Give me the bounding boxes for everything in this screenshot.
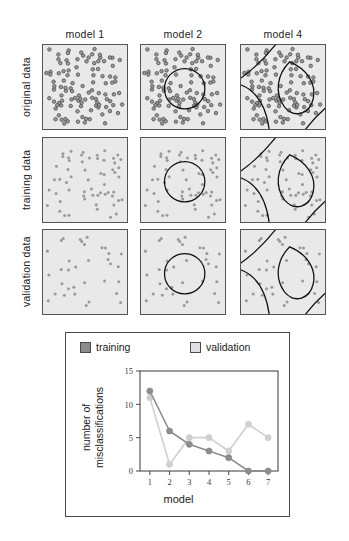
scatter-panel-validation-model-1 (42, 229, 128, 315)
svg-text:5: 5 (129, 433, 133, 443)
chart-x-axis-title: model (66, 493, 291, 505)
column-header-model-4: model 4 (238, 28, 328, 40)
column-header-model-2: model 2 (138, 28, 228, 40)
svg-text:10: 10 (125, 400, 134, 410)
scatter-panel-original-model-1 (42, 44, 128, 130)
svg-text:6: 6 (246, 477, 250, 487)
scatter-panel-training-model-2 (140, 137, 226, 223)
svg-text:5: 5 (227, 477, 231, 487)
svg-text:15: 15 (125, 366, 134, 376)
legend-swatch-training-icon (80, 342, 91, 353)
svg-text:3: 3 (187, 477, 191, 487)
svg-text:0: 0 (129, 466, 133, 476)
legend-item-validation: validation (190, 341, 250, 353)
legend-label-training: training (96, 341, 130, 353)
figure-root: model 1 model 2 model 4 original data tr… (0, 0, 349, 541)
scatter-panel-training-model-1 (42, 137, 128, 223)
legend-label-validation: validation (206, 341, 250, 353)
row-label-validation-data: validation data (20, 229, 34, 315)
legend-swatch-validation-icon (190, 342, 201, 353)
legend-item-training: training (80, 341, 130, 353)
row-label-original-data: original data (20, 44, 34, 130)
row-label-training-data: training data (20, 137, 34, 223)
scatter-panel-original-model-4 (240, 44, 326, 130)
svg-text:2: 2 (167, 477, 171, 487)
scatter-panel-original-model-2 (140, 44, 226, 130)
misclassification-chart: training validation number of misclassif… (65, 332, 290, 517)
scatter-panel-validation-model-2 (140, 229, 226, 315)
scatter-panel-validation-model-4 (240, 229, 326, 315)
scatter-panel-training-model-4 (240, 137, 326, 223)
column-header-model-1: model 1 (40, 28, 130, 40)
svg-text:4: 4 (207, 477, 212, 487)
chart-legend: training validation (66, 341, 289, 359)
svg-text:1: 1 (148, 477, 152, 487)
panel-grid: model 1 model 2 model 4 original data tr… (0, 0, 349, 320)
svg-text:7: 7 (266, 477, 270, 487)
